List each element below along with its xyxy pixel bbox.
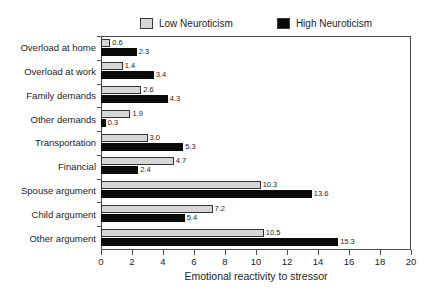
x-axis-tick xyxy=(101,250,102,255)
x-axis-tick xyxy=(132,250,133,255)
x-axis-tick xyxy=(163,250,164,255)
y-axis-category-label: Child argument xyxy=(0,202,96,226)
bar-high-neuroticism: 13.6 xyxy=(101,190,411,198)
bar-rect xyxy=(101,143,183,151)
y-axis-category-label: Spouse argument xyxy=(0,179,96,203)
x-axis-tick-label: 6 xyxy=(191,256,196,268)
bar-group: 2.64.3 xyxy=(101,84,411,108)
x-axis-tick-label: 12 xyxy=(282,256,293,268)
bar-group: 10.515.3 xyxy=(101,226,411,250)
x-axis-tick-label: 8 xyxy=(222,256,227,268)
x-axis-tick xyxy=(194,250,195,255)
y-axis-tick xyxy=(97,202,101,203)
bar-rect xyxy=(101,134,148,142)
bar-value-label: 15.3 xyxy=(340,238,355,246)
bar-group: 1.90.3 xyxy=(101,107,411,131)
bar-low-neuroticism: 1.4 xyxy=(101,62,411,70)
x-axis-tick xyxy=(411,250,412,255)
bar-low-neuroticism: 10.5 xyxy=(101,229,411,237)
bar-high-neuroticism: 5.3 xyxy=(101,143,411,151)
bar-high-neuroticism: 3.4 xyxy=(101,71,411,79)
bar-rect xyxy=(101,166,138,174)
bar-chart: Low Neuroticism High Neuroticism Overloa… xyxy=(0,0,438,291)
x-axis-tick-label: 20 xyxy=(406,256,417,268)
bar-rect xyxy=(101,157,174,165)
x-axis-tick-labels: 02468101214161820 xyxy=(101,256,411,269)
bar-value-label: 7.2 xyxy=(215,205,225,213)
bar-low-neuroticism: 1.9 xyxy=(101,110,411,118)
bar-high-neuroticism: 5.4 xyxy=(101,214,411,222)
bar-group: 4.72.4 xyxy=(101,155,411,179)
bar-value-label: 13.6 xyxy=(314,190,329,198)
bar-high-neuroticism: 0.3 xyxy=(101,119,411,127)
bar-group: 7.25.4 xyxy=(101,202,411,226)
bar-rect xyxy=(101,119,106,127)
bar-rect xyxy=(101,181,261,189)
y-axis-tick xyxy=(97,60,101,61)
y-axis-tick xyxy=(97,179,101,180)
bar-value-label: 1.9 xyxy=(132,110,142,118)
high-neuroticism-swatch-icon xyxy=(277,18,290,29)
x-axis-tick xyxy=(380,250,381,255)
bar-value-label: 2.3 xyxy=(139,48,149,56)
x-axis-tick-label: 2 xyxy=(129,256,134,268)
bar-low-neuroticism: 4.7 xyxy=(101,157,411,165)
low-neuroticism-swatch-icon xyxy=(140,18,153,29)
y-axis-tick xyxy=(97,131,101,132)
x-axis-tick xyxy=(256,250,257,255)
bar-value-label: 5.4 xyxy=(187,214,197,222)
legend-entry-low-neuroticism: Low Neuroticism xyxy=(140,18,233,29)
bar-value-label: 2.6 xyxy=(143,86,153,94)
x-axis-tick xyxy=(287,250,288,255)
bar-value-label: 3.4 xyxy=(156,71,166,79)
y-axis-tick xyxy=(97,36,101,37)
bar-high-neuroticism: 2.3 xyxy=(101,48,411,56)
bar-group: 3.05.3 xyxy=(101,131,411,155)
bar-value-label: 2.4 xyxy=(140,166,150,174)
bar-value-label: 1.4 xyxy=(125,62,135,70)
x-axis-tick xyxy=(225,250,226,255)
x-axis-tick-label: 10 xyxy=(251,256,262,268)
bar-rect xyxy=(101,214,185,222)
bar-rect xyxy=(101,110,130,118)
y-axis-tick xyxy=(97,107,101,108)
y-axis-category-label: Overload at work xyxy=(0,60,96,84)
x-axis-tick xyxy=(318,250,319,255)
y-axis-category-labels: Overload at homeOverload at workFamily d… xyxy=(0,36,96,250)
bar-rect xyxy=(101,62,123,70)
bar-group: 1.43.4 xyxy=(101,60,411,84)
bar-low-neuroticism: 2.6 xyxy=(101,86,411,94)
bar-rect xyxy=(101,95,168,103)
bar-rect xyxy=(101,86,141,94)
legend-label-high-neuroticism: High Neuroticism xyxy=(296,18,372,29)
legend-entry-high-neuroticism: High Neuroticism xyxy=(277,18,372,29)
bar-value-label: 4.7 xyxy=(176,157,186,165)
bar-high-neuroticism: 4.3 xyxy=(101,95,411,103)
y-axis-category-label: Transportation xyxy=(0,131,96,155)
y-axis-category-label: Family demands xyxy=(0,84,96,108)
x-axis-tick-label: 14 xyxy=(313,256,324,268)
x-axis-tick-label: 4 xyxy=(160,256,165,268)
bar-value-label: 5.3 xyxy=(185,143,195,151)
y-axis-category-label: Other demands xyxy=(0,107,96,131)
bar-rect xyxy=(101,190,312,198)
x-axis-title: Emotional reactivity to stressor xyxy=(101,270,411,283)
bar-value-label: 0.3 xyxy=(108,119,118,127)
bar-rect xyxy=(101,205,213,213)
x-axis-tick-label: 0 xyxy=(98,256,103,268)
y-axis-tick xyxy=(97,84,101,85)
x-axis-tick xyxy=(349,250,350,255)
y-axis-tick xyxy=(97,226,101,227)
bar-high-neuroticism: 2.4 xyxy=(101,166,411,174)
x-axis-tick-label: 16 xyxy=(344,256,355,268)
legend-label-low-neuroticism: Low Neuroticism xyxy=(159,18,233,29)
bar-low-neuroticism: 3.0 xyxy=(101,134,411,142)
bar-low-neuroticism: 10.3 xyxy=(101,181,411,189)
bar-low-neuroticism: 7.2 xyxy=(101,205,411,213)
bar-value-label: 4.3 xyxy=(170,95,180,103)
y-axis-category-label: Other argument xyxy=(0,226,96,250)
bar-rect xyxy=(101,39,110,47)
bar-rect xyxy=(101,229,264,237)
bar-group: 0.62.3 xyxy=(101,36,411,60)
chart-legend: Low Neuroticism High Neuroticism xyxy=(101,12,411,34)
